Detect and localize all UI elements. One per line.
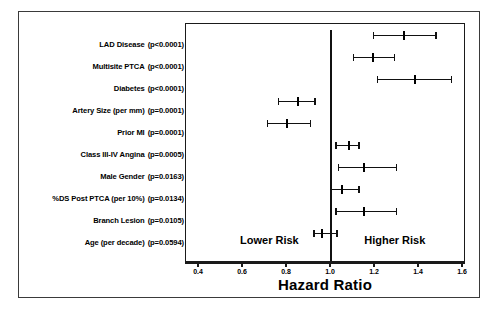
confidence-interval-line bbox=[353, 57, 395, 58]
row-label: %DS Post PTCA (per 10%)(p=0.0134) bbox=[20, 194, 184, 203]
confidence-interval-row bbox=[186, 184, 464, 195]
row-pvalue-text: (p=0.0001) bbox=[148, 128, 184, 137]
confidence-interval-row bbox=[186, 96, 464, 107]
confidence-interval-cap-low bbox=[331, 186, 332, 193]
row-label-text: Male Gender bbox=[100, 172, 144, 181]
x-axis-tick bbox=[373, 262, 374, 267]
confidence-interval-cap-high bbox=[396, 164, 397, 171]
row-label: LAD Disease(p<0.0001) bbox=[20, 40, 184, 49]
confidence-interval-cap-high bbox=[451, 76, 452, 83]
hazard-ratio-point-marker bbox=[372, 53, 374, 62]
x-axis-tick bbox=[329, 262, 330, 267]
x-axis-title: Hazard Ratio bbox=[185, 276, 465, 293]
confidence-interval-cap-high bbox=[394, 54, 395, 61]
row-label-text: Multisite PTCA bbox=[92, 62, 144, 71]
confidence-interval-cap-high bbox=[336, 230, 337, 237]
x-axis-tick bbox=[417, 262, 418, 267]
confidence-interval-cap-low bbox=[353, 54, 354, 61]
hazard-ratio-point-marker bbox=[363, 163, 365, 172]
confidence-interval-cap-high bbox=[310, 120, 311, 127]
confidence-interval-row bbox=[186, 140, 464, 151]
confidence-interval-line bbox=[267, 123, 311, 124]
hazard-ratio-point-marker bbox=[286, 119, 288, 128]
row-label: Age (per decade)(p=0.0594) bbox=[20, 238, 184, 247]
confidence-interval-line bbox=[313, 233, 337, 234]
confidence-interval-row bbox=[186, 228, 464, 239]
confidence-interval-line bbox=[338, 167, 397, 168]
confidence-interval-cap-low bbox=[338, 164, 339, 171]
hazard-ratio-point-marker bbox=[348, 141, 350, 150]
row-label-text: Artery Size (per mm) bbox=[72, 106, 144, 115]
row-label-text: Diabetes bbox=[114, 84, 145, 93]
hazard-ratio-point-marker bbox=[321, 229, 323, 238]
row-pvalue-text: (p=0.0005) bbox=[148, 150, 184, 159]
confidence-interval-cap-low bbox=[335, 142, 336, 149]
x-axis-tick bbox=[241, 262, 242, 267]
row-pvalue-text: (p=0.0134) bbox=[148, 194, 184, 203]
hazard-ratio-point-marker bbox=[414, 75, 416, 84]
row-label-column: LAD Disease(p<0.0001)Multisite PTCA(p<0.… bbox=[20, 11, 184, 298]
confidence-interval-cap-low bbox=[278, 98, 279, 105]
confidence-interval-cap-low bbox=[377, 76, 378, 83]
row-label: Multisite PTCA(p<0.0001) bbox=[20, 62, 184, 71]
confidence-interval-cap-high bbox=[358, 186, 359, 193]
confidence-interval-line bbox=[331, 189, 360, 190]
x-axis-tick bbox=[461, 262, 462, 267]
row-label-text: Class III-IV Angina bbox=[81, 150, 145, 159]
row-pvalue-text: (p=0.0594) bbox=[148, 238, 184, 247]
hazard-ratio-point-marker bbox=[341, 185, 343, 194]
x-axis-tick-label: 1.4 bbox=[413, 268, 423, 275]
row-label-text: LAD Disease bbox=[99, 40, 144, 49]
row-pvalue-text: (p<0.0001) bbox=[148, 40, 184, 49]
confidence-interval-cap-low bbox=[335, 208, 336, 215]
row-pvalue-text: (p=0.0105) bbox=[148, 216, 184, 225]
row-pvalue-text: (p=0.0001) bbox=[148, 106, 184, 115]
hazard-ratio-point-marker bbox=[297, 97, 299, 106]
x-axis-tick-label: 1.0 bbox=[325, 268, 335, 275]
confidence-interval-row bbox=[186, 52, 464, 63]
confidence-interval-cap-low bbox=[313, 230, 314, 237]
row-label: Male Gender(p=0.0163) bbox=[20, 172, 184, 181]
row-label: Artery Size (per mm)(p=0.0001) bbox=[20, 106, 184, 115]
confidence-interval-cap-high bbox=[435, 32, 436, 39]
row-label-text: Age (per decade) bbox=[85, 238, 145, 247]
row-label: Branch Lesion(p=0.0105) bbox=[20, 216, 184, 225]
hazard-ratio-point-marker bbox=[403, 31, 405, 40]
x-axis-tick bbox=[197, 262, 198, 267]
confidence-interval-line bbox=[335, 211, 397, 212]
confidence-interval-row bbox=[186, 74, 464, 85]
x-axis-tick-label: 0.8 bbox=[281, 268, 291, 275]
row-label: Class III-IV Angina(p=0.0005) bbox=[20, 150, 184, 159]
row-pvalue-text: (p<0.0001) bbox=[148, 84, 184, 93]
confidence-interval-cap-low bbox=[267, 120, 268, 127]
row-label: Diabetes(p<0.0001) bbox=[20, 84, 184, 93]
confidence-interval-row bbox=[186, 118, 464, 129]
row-label-text: %DS Post PTCA (per 10%) bbox=[52, 194, 144, 203]
x-axis-tick-label: 0.4 bbox=[193, 268, 203, 275]
confidence-interval-row bbox=[186, 206, 464, 217]
confidence-interval-cap-high bbox=[314, 98, 315, 105]
confidence-interval-cap-high bbox=[358, 142, 359, 149]
row-pvalue-text: (p=0.0163) bbox=[148, 172, 184, 181]
confidence-interval-cap-high bbox=[396, 208, 397, 215]
plot-panel: Lower Risk Higher Risk bbox=[185, 23, 465, 262]
forest-plot-figure: LAD Disease(p<0.0001)Multisite PTCA(p<0.… bbox=[0, 0, 497, 317]
confidence-interval-line bbox=[373, 35, 437, 36]
x-axis-tick-label: 1.6 bbox=[457, 268, 467, 275]
x-axis-line bbox=[185, 262, 465, 264]
confidence-interval-row bbox=[186, 162, 464, 173]
row-label-text: Branch Lesion bbox=[93, 216, 144, 225]
hazard-ratio-point-marker bbox=[363, 207, 365, 216]
x-axis-tick bbox=[285, 262, 286, 267]
row-label: Prior MI(p=0.0001) bbox=[20, 128, 184, 137]
plot-inner-area: Lower Risk Higher Risk bbox=[186, 24, 464, 261]
row-label-text: Prior MI bbox=[117, 128, 144, 137]
confidence-interval-cap-low bbox=[373, 32, 374, 39]
x-axis-tick-label: 1.2 bbox=[369, 268, 379, 275]
x-axis-tick-label: 0.6 bbox=[237, 268, 247, 275]
confidence-interval-row bbox=[186, 30, 464, 41]
row-pvalue-text: (p<0.0001) bbox=[148, 62, 184, 71]
